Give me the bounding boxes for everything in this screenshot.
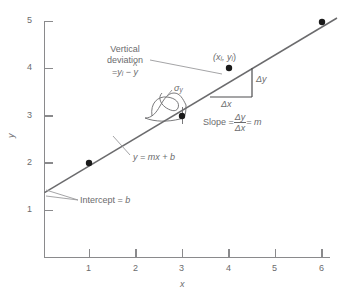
vertical-deviation-annotation: Vertical deviation =yi − y [95,44,155,78]
x-tick-label-3: 3 [179,263,184,274]
line-equation-label: y = mx + b [133,152,175,163]
data-points [86,19,325,166]
y-tick-label-4: 4 [27,62,32,73]
slope-denominator: Δx [234,123,247,133]
slope-formula: Slope =ΔyΔx= m [203,112,262,134]
regression-line [45,18,338,193]
x-axis-ticks [90,249,323,258]
y-tick-label-1: 1 [27,204,32,215]
y-tick-label-2: 2 [27,157,32,168]
data-point-1 [86,160,92,166]
data-point-2 [179,113,185,119]
x-tick-label-6: 6 [319,263,324,274]
deviation-minus: − [126,67,131,77]
point-label-close: ) [233,52,236,62]
point-label-open: (x [213,52,221,62]
leader-lines [46,60,222,200]
x-tick-label-4: 4 [226,263,231,274]
vertical-deviation-formula: =yi − y [95,67,155,78]
x-axis-title: x [180,279,185,290]
vertical-deviation-line-2: deviation [95,55,155,66]
axes [45,21,331,258]
slope-formula-suffix: = m [246,117,261,127]
deviation-y-hat: y [134,67,139,78]
point-coordinate-label: (xi, yi) [213,52,236,63]
data-point-3 [226,65,232,71]
intercept-leader-upper [46,190,78,200]
x-tick-label-2: 2 [133,263,138,274]
intercept-symbol: b [125,195,130,205]
line-equation-y: y [133,152,138,162]
x-tick-label-1: 1 [86,263,91,274]
y-axis-ticks [45,22,54,211]
vertical-deviation-line-1: Vertical [95,44,155,55]
delta-x-label: Δx [221,99,232,110]
vertical-deviation-leader [150,60,222,74]
plot-canvas [0,0,342,297]
intercept-text: Intercept = [80,195,123,205]
y-axis-title: y [6,133,17,138]
delta-y-label: Δy [256,74,267,85]
sigma-label: σy [174,83,183,94]
x-tick-label-5: 5 [272,263,277,274]
line-equation-rest: = mx + b [140,152,175,162]
deviation-yi-subscript: i [122,70,123,77]
slope-numerator: Δy [234,112,247,123]
y-tick-label-5: 5 [27,15,32,26]
intercept-leader-lower [46,196,78,200]
intercept-label: Intercept = b [80,195,130,206]
data-point-4 [319,19,325,25]
regression-line-figure: 5 4 3 2 1 1 2 3 4 5 6 x y Vertical devia… [0,0,342,297]
y-tick-label-3: 3 [27,110,32,121]
sigma-subscript: y [179,86,182,93]
slope-fraction: ΔyΔx [234,112,247,134]
line-equation-leader [113,136,130,155]
slope-formula-prefix: Slope = [203,117,234,127]
